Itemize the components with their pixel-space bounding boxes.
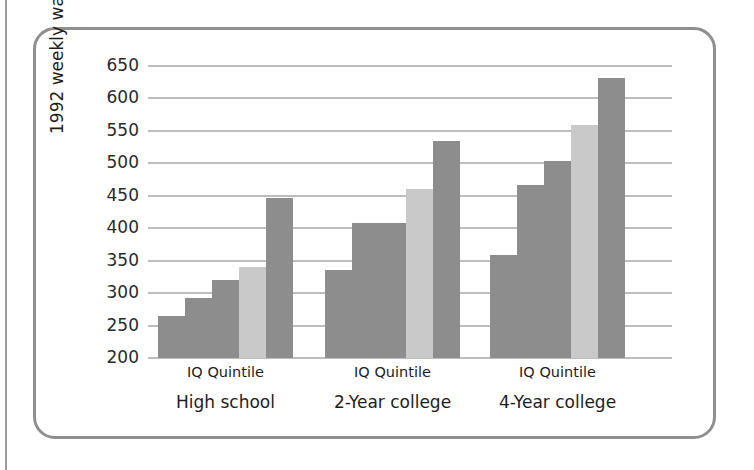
group-caption: IQ Quintile: [158, 364, 293, 380]
bar-group: [158, 66, 293, 358]
bar: [185, 298, 212, 358]
bar: [517, 185, 544, 358]
y-tick-label: 450: [107, 187, 139, 204]
bar: [239, 267, 266, 358]
bar: [544, 161, 571, 358]
bar-group: [490, 66, 625, 358]
y-axis-title: 1992 weekly wages: [47, 0, 71, 134]
bar: [571, 125, 598, 358]
y-tick-label: 600: [107, 89, 139, 106]
y-tick-label: 400: [107, 219, 139, 236]
bar: [598, 78, 625, 358]
plot-area: [148, 66, 672, 358]
y-tick-label: 500: [107, 154, 139, 171]
group-caption: IQ Quintile: [490, 364, 625, 380]
bar: [433, 141, 460, 358]
bar-group: [325, 66, 460, 358]
y-tick-label: 300: [107, 284, 139, 301]
page-edge-rule: [5, 0, 7, 470]
y-tick-label: 200: [107, 349, 139, 366]
y-tick-label: 350: [107, 252, 139, 269]
bar: [158, 316, 185, 358]
bar: [490, 255, 517, 358]
group-name: 2-Year college: [305, 392, 480, 412]
group-name: High school: [138, 392, 313, 412]
bar: [325, 270, 352, 358]
bar: [406, 189, 433, 358]
group-name: 4-Year college: [470, 392, 645, 412]
bar: [212, 280, 239, 358]
y-tick-label: 250: [107, 317, 139, 334]
y-tick-label: 550: [107, 122, 139, 139]
bar: [352, 223, 379, 358]
y-tick-label: 650: [107, 57, 139, 74]
group-caption: IQ Quintile: [325, 364, 460, 380]
bar: [379, 223, 406, 358]
bar: [266, 198, 293, 358]
